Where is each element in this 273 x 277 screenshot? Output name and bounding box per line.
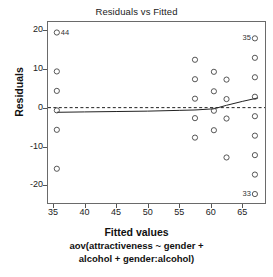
data-point — [211, 69, 216, 74]
data-point — [252, 36, 257, 41]
data-point — [192, 135, 197, 140]
data-point — [54, 30, 59, 35]
data-point — [224, 155, 229, 160]
x-tick-label: 65 — [227, 207, 257, 217]
y-axis-title: Residuals — [13, 47, 25, 137]
data-point — [54, 69, 59, 74]
y-tick-label: -20 — [15, 179, 43, 189]
data-point-label: 33 — [239, 189, 251, 198]
data-point — [192, 57, 197, 62]
data-point-label: 35 — [239, 33, 251, 42]
x-tick-label: 55 — [164, 207, 194, 217]
y-tick-mark — [43, 185, 47, 186]
data-point — [252, 133, 257, 138]
x-tick-label: 35 — [38, 207, 68, 217]
data-point — [252, 191, 257, 196]
data-point — [192, 77, 197, 82]
residuals-vs-fitted-plot: Residuals vs Fitted 20100-10-20 Residual… — [0, 0, 273, 277]
plot-panel: 443533 — [47, 21, 266, 204]
y-tick-mark — [43, 69, 47, 70]
data-point — [211, 128, 216, 133]
data-point — [224, 96, 229, 101]
x-tick-label: 40 — [70, 207, 100, 217]
y-tick-mark — [43, 147, 47, 148]
y-tick-label: -10 — [15, 141, 43, 151]
x-tick-label: 45 — [101, 207, 131, 217]
x-axis-title: Fitted values — [0, 226, 273, 238]
data-point — [192, 116, 197, 121]
data-point — [252, 172, 257, 177]
y-tick-mark — [43, 30, 47, 31]
data-point — [54, 88, 59, 93]
model-formula-line-1: aov(attractiveness ~ gender + — [0, 239, 273, 252]
scatter-canvas — [48, 22, 265, 203]
lowess-smoother-line — [57, 98, 258, 112]
data-point — [192, 96, 197, 101]
data-point-label: 44 — [61, 28, 69, 37]
x-tick-label: 50 — [133, 207, 163, 217]
data-point — [54, 127, 59, 132]
data-point — [224, 116, 229, 121]
data-point — [252, 114, 257, 119]
data-point — [252, 153, 257, 158]
y-tick-label: 20 — [15, 24, 43, 34]
model-formula-caption: aov(attractiveness ~ gender + alcohol + … — [0, 239, 273, 265]
x-tick-label: 60 — [196, 207, 226, 217]
model-formula-line-2: alcohol + gender:alcohol) — [0, 252, 273, 265]
data-point — [252, 75, 257, 80]
y-tick-mark — [43, 108, 47, 109]
data-point — [54, 166, 59, 171]
data-point — [224, 77, 229, 82]
data-point — [211, 89, 216, 94]
data-point — [252, 55, 257, 60]
